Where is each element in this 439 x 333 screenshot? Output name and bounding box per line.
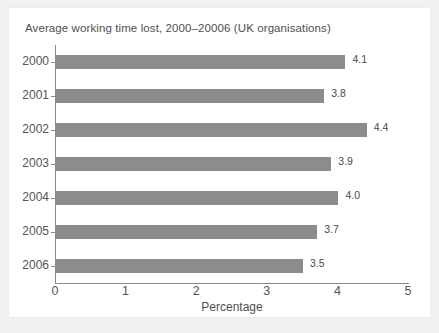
- x-tick-label-1: 1: [122, 284, 129, 298]
- x-tick-label-2: 2: [193, 284, 200, 298]
- bar-value-label-2001: 3.8: [331, 87, 346, 99]
- bar-value-label-2002: 4.4: [374, 121, 389, 133]
- plot-area: 4.13.84.43.94.03.73.5: [55, 45, 408, 283]
- y-tick-label-2004: 2004: [22, 190, 49, 204]
- y-tick-label-2006: 2006: [22, 258, 49, 272]
- y-tick-label-2005: 2005: [22, 224, 49, 238]
- y-tick-label-2000: 2000: [22, 54, 49, 68]
- y-tick-mark-2003: [51, 164, 55, 165]
- bar-2005: [56, 225, 317, 239]
- bar-value-label-2000: 4.1: [352, 53, 367, 65]
- y-tick-mark-2002: [51, 130, 55, 131]
- y-tick-label-2001: 2001: [22, 88, 49, 102]
- y-tick-mark-2004: [51, 198, 55, 199]
- bar-2003: [56, 157, 331, 171]
- chart-figure: Average working time lost, 2000–20006 (U…: [0, 0, 439, 333]
- x-tick-label-5: 5: [405, 284, 412, 298]
- y-tick-mark-2006: [51, 266, 55, 267]
- x-tick-label-3: 3: [263, 284, 270, 298]
- bar-2002: [56, 123, 367, 137]
- bar-value-label-2005: 3.7: [324, 223, 339, 235]
- y-tick-mark-2005: [51, 232, 55, 233]
- bar-2004: [56, 191, 338, 205]
- bar-2001: [56, 89, 324, 103]
- bar-value-label-2006: 3.5: [310, 257, 325, 269]
- y-tick-mark-2000: [51, 62, 55, 63]
- y-tick-mark-2001: [51, 96, 55, 97]
- y-tick-label-2003: 2003: [22, 156, 49, 170]
- x-tick-label-0: 0: [52, 284, 59, 298]
- chart-title: Average working time lost, 2000–20006 (U…: [25, 22, 331, 34]
- bar-2006: [56, 259, 303, 273]
- x-tick-label-4: 4: [334, 284, 341, 298]
- x-axis-title: Percentage: [55, 300, 409, 314]
- bar-2000: [56, 55, 345, 69]
- y-axis-labels: 2000200120022003200420052006: [3, 45, 49, 283]
- bar-value-label-2004: 4.0: [345, 189, 360, 201]
- chart-card: Average working time lost, 2000–20006 (U…: [9, 8, 430, 317]
- y-tick-label-2002: 2002: [22, 122, 49, 136]
- bar-value-label-2003: 3.9: [338, 155, 353, 167]
